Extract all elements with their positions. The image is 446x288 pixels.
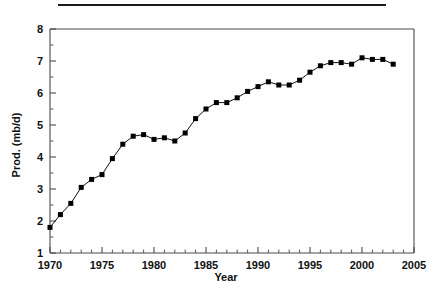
data-point-marker: [120, 142, 125, 147]
data-point-marker: [100, 172, 105, 177]
data-point-marker: [297, 78, 302, 83]
y-tick-label: 6: [37, 87, 43, 99]
data-point-marker: [79, 185, 84, 190]
series-markers-production: [48, 55, 396, 230]
x-axis-title: Year: [214, 271, 238, 283]
production-line-chart: 19701975198019851990199520002005 1234567…: [0, 0, 446, 288]
y-tick-label: 3: [37, 183, 43, 195]
data-point-marker: [235, 95, 240, 100]
data-point-marker: [266, 79, 271, 84]
data-point-marker: [152, 137, 157, 142]
data-point-marker: [360, 55, 365, 60]
data-point-marker: [214, 100, 219, 105]
y-tick-label: 1: [37, 247, 43, 259]
data-point-marker: [256, 84, 261, 89]
x-tick-label: 2000: [350, 259, 374, 271]
data-point-marker: [131, 134, 136, 139]
data-point-marker: [68, 201, 73, 206]
data-point-marker: [308, 70, 313, 75]
series-line-production: [50, 58, 393, 228]
data-point-marker: [245, 89, 250, 94]
x-tick-label: 1995: [298, 259, 322, 271]
data-point-marker: [162, 135, 167, 140]
y-tick-label: 5: [37, 119, 43, 131]
y-axis-title: Prod. (mb/d): [10, 112, 22, 177]
data-point-marker: [110, 156, 115, 161]
chart-container: 19701975198019851990199520002005 1234567…: [0, 0, 446, 288]
x-tick-label: 1980: [142, 259, 166, 271]
data-point-marker: [328, 60, 333, 65]
data-point-marker: [89, 177, 94, 182]
data-point-marker: [349, 62, 354, 67]
data-point-marker: [224, 100, 229, 105]
data-point-marker: [380, 57, 385, 62]
y-axis-ticks: [50, 29, 56, 253]
x-tick-label: 1975: [90, 259, 114, 271]
data-point-marker: [370, 57, 375, 62]
x-tick-label: 1970: [38, 259, 62, 271]
data-point-marker: [339, 60, 344, 65]
data-point-marker: [391, 62, 396, 67]
y-axis-tick-labels: 12345678: [37, 23, 44, 259]
data-point-marker: [193, 116, 198, 121]
data-point-marker: [141, 132, 146, 137]
data-point-marker: [172, 139, 177, 144]
y-tick-label: 4: [37, 151, 44, 163]
data-point-marker: [318, 63, 323, 68]
x-tick-label: 1990: [246, 259, 270, 271]
y-tick-label: 2: [37, 215, 43, 227]
y-tick-label: 7: [37, 55, 43, 67]
x-tick-label: 1985: [194, 259, 218, 271]
data-point-marker: [183, 131, 188, 136]
x-tick-label: 2005: [402, 259, 426, 271]
data-point-marker: [48, 225, 53, 230]
x-axis-ticks: [50, 247, 414, 253]
y-tick-label: 8: [37, 23, 43, 35]
x-axis-tick-labels: 19701975198019851990199520002005: [38, 259, 426, 271]
data-point-marker: [58, 212, 63, 217]
plot-frame: [50, 29, 414, 253]
data-point-marker: [276, 83, 281, 88]
data-point-marker: [204, 107, 209, 112]
data-point-marker: [287, 83, 292, 88]
